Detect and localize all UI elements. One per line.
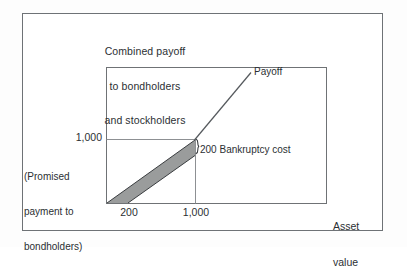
payoff-line-label: Payoff xyxy=(254,66,282,78)
chart-title-line-1: Combined payoff xyxy=(60,46,230,58)
x-axis-tick-1000: 1,000 xyxy=(176,207,216,219)
y-axis-tick-1000: 1,000 xyxy=(58,132,102,144)
bankruptcy-cost-label: 200 Bankruptcy cost xyxy=(200,144,291,156)
chart-title-line-3: and stockholders xyxy=(60,115,230,127)
promised-payment-note-line-1: (Promised xyxy=(24,171,104,183)
x-axis-title: Asset value xyxy=(333,196,381,270)
promised-payment-note-line-2: payment to xyxy=(24,206,104,218)
promised-payment-note: (Promised payment to bondholders) xyxy=(24,148,104,270)
x-axis-tick-200: 200 xyxy=(112,207,146,219)
promised-payment-note-line-3: bondholders) xyxy=(24,241,104,253)
x-axis-title-line-2: value xyxy=(333,256,381,268)
chart-title-line-2: to bondholders xyxy=(60,81,230,93)
x-axis-title-line-1: Asset xyxy=(333,220,381,232)
